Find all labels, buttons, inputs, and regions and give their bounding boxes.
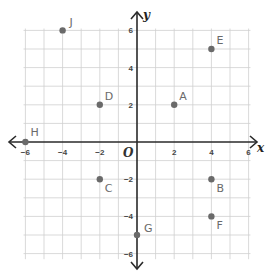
point-marker-icon (171, 102, 177, 108)
y-tick-label: −2 (124, 175, 134, 184)
y-tick-label: 2 (129, 101, 134, 110)
x-tick-label: 6 (246, 148, 251, 157)
x-tick-labels: −6−4−2246 (21, 148, 252, 157)
point-marker-icon (208, 46, 214, 52)
point-marker-icon (134, 232, 140, 238)
point-j: J (59, 16, 72, 33)
y-tick-label: 4 (129, 64, 134, 73)
point-label: H (30, 126, 38, 139)
x-axis-label: x (256, 141, 265, 155)
x-tick-label: −2 (95, 148, 105, 157)
point-marker-icon (59, 27, 65, 33)
x-tick-label: −4 (58, 148, 68, 157)
y-tick-label: 6 (129, 26, 134, 35)
point-marker-icon (97, 176, 103, 182)
data-points: ABCDEFGHJ (22, 16, 224, 238)
coordinate-plane: x y O −6−4−2246 642−2−4−6 ABCDEFGHJ (0, 0, 266, 274)
y-tick-label: −6 (124, 250, 134, 259)
y-axis-label: y (142, 8, 151, 22)
point-d: D (97, 90, 114, 108)
x-tick-label: 4 (209, 148, 214, 157)
point-label: A (179, 90, 187, 103)
point-marker-icon (22, 139, 28, 145)
point-a: A (171, 90, 187, 108)
point-marker-icon (208, 176, 214, 182)
origin-label: O (123, 146, 134, 160)
x-tick-label: 2 (172, 148, 177, 157)
point-label: F (216, 219, 222, 232)
x-tick-label: −6 (21, 148, 31, 157)
point-label: G (144, 222, 153, 235)
point-label: E (216, 34, 223, 47)
y-tick-label: −4 (124, 212, 134, 221)
point-label: D (105, 90, 113, 103)
point-label: B (216, 182, 224, 195)
point-label: J (69, 16, 73, 29)
point-e: E (208, 34, 223, 52)
point-marker-icon (97, 102, 103, 108)
point-label: C (105, 182, 113, 195)
point-marker-icon (208, 213, 214, 219)
